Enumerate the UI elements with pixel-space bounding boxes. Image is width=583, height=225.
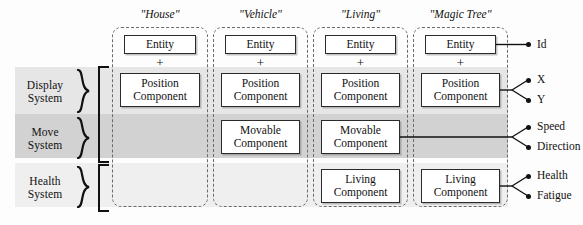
entity-box-vehicle-label: Entity: [246, 38, 274, 51]
plus-sign-house: +: [124, 56, 196, 69]
entity-title-magic-tree: "Magic Tree": [413, 8, 508, 20]
component-box-living-living[interactable]: Living Component: [321, 169, 400, 203]
entity-box-living[interactable]: Entity: [325, 35, 396, 54]
component-box-magic-tree-position-line1: Position: [442, 77, 480, 90]
system-label-display-line2: System: [14, 92, 76, 105]
attribute-label-x: X: [537, 73, 545, 86]
entity-title-living: "Living": [313, 8, 408, 20]
component-box-magic-tree-position[interactable]: Position Component: [421, 73, 500, 107]
curly-brace-icon-health: [76, 166, 90, 208]
attribute-label-direction: Direction: [537, 140, 580, 153]
attribute-label-fatigue: Fatigue: [537, 189, 572, 202]
system-label-health-line1: Health: [14, 175, 76, 188]
group-bracket-display-move: [98, 66, 109, 163]
entity-box-house-label: Entity: [146, 38, 174, 51]
component-box-living-position-line2: Component: [334, 90, 388, 103]
entity-box-vehicle[interactable]: Entity: [225, 35, 296, 54]
entity-box-living-label: Entity: [346, 38, 374, 51]
attribute-dot-x: [526, 78, 531, 83]
system-label-display-line1: Display: [14, 79, 76, 92]
entity-column-house[interactable]: [112, 27, 208, 207]
entity-box-house[interactable]: Entity: [124, 35, 196, 54]
component-box-vehicle-position-line1: Position: [242, 77, 280, 90]
curly-brace-icon-move: [76, 117, 90, 159]
attribute-label-y: Y: [537, 93, 545, 106]
component-box-vehicle-movable[interactable]: Movable Component: [221, 120, 300, 154]
plus-sign-living: +: [325, 56, 396, 69]
component-box-magic-tree-position-line2: Component: [434, 90, 488, 103]
component-box-vehicle-position[interactable]: Position Component: [221, 73, 300, 107]
entity-column-vehicle[interactable]: [213, 27, 308, 207]
system-label-health: Health System: [14, 175, 76, 200]
system-label-move-line1: Move: [14, 126, 76, 139]
component-box-vehicle-movable-line2: Component: [234, 137, 288, 150]
attribute-label-id: Id: [537, 38, 547, 51]
attribute-label-health: Health: [537, 169, 568, 182]
component-box-house-position-line2: Component: [133, 90, 187, 103]
entity-box-magic-tree-label: Entity: [446, 38, 474, 51]
attribute-dot-id: [526, 42, 531, 47]
system-label-display: Display System: [14, 79, 76, 104]
plus-sign-magic-tree: +: [425, 56, 496, 69]
attribute-dot-health: [526, 174, 531, 179]
entity-title-vehicle: "Vehicle": [213, 8, 308, 20]
diagram-canvas: Display System Move System Health System…: [0, 0, 583, 225]
entity-title-house: "House": [112, 8, 208, 20]
component-box-living-movable-line2: Component: [334, 137, 388, 150]
component-box-magic-tree-living[interactable]: Living Component: [421, 169, 500, 203]
component-box-living-position[interactable]: Position Component: [321, 73, 400, 107]
component-box-magic-tree-living-line2: Component: [434, 186, 488, 199]
component-box-living-movable-line1: Movable: [340, 124, 381, 137]
curly-brace-icon-display: [76, 69, 90, 113]
component-box-vehicle-position-line2: Component: [234, 90, 288, 103]
entity-box-magic-tree[interactable]: Entity: [425, 35, 496, 54]
attribute-label-speed: Speed: [537, 120, 565, 133]
group-bracket-health: [98, 164, 109, 212]
component-box-house-position[interactable]: Position Component: [120, 73, 200, 107]
component-box-vehicle-movable-line1: Movable: [240, 124, 281, 137]
component-box-living-movable[interactable]: Movable Component: [321, 120, 400, 154]
attribute-dot-y: [526, 98, 531, 103]
system-label-health-line2: System: [14, 188, 76, 201]
component-box-magic-tree-living-line1: Living: [445, 173, 476, 186]
attribute-dot-speed: [526, 125, 531, 130]
plus-sign-vehicle: +: [225, 56, 296, 69]
component-box-house-position-line1: Position: [141, 77, 179, 90]
component-box-living-position-line1: Position: [342, 77, 380, 90]
component-box-living-living-line1: Living: [345, 173, 376, 186]
component-box-living-living-line2: Component: [334, 186, 388, 199]
attribute-dot-direction: [526, 145, 531, 150]
system-label-move: Move System: [14, 126, 76, 151]
system-label-move-line2: System: [14, 139, 76, 152]
attribute-dot-fatigue: [526, 194, 531, 199]
